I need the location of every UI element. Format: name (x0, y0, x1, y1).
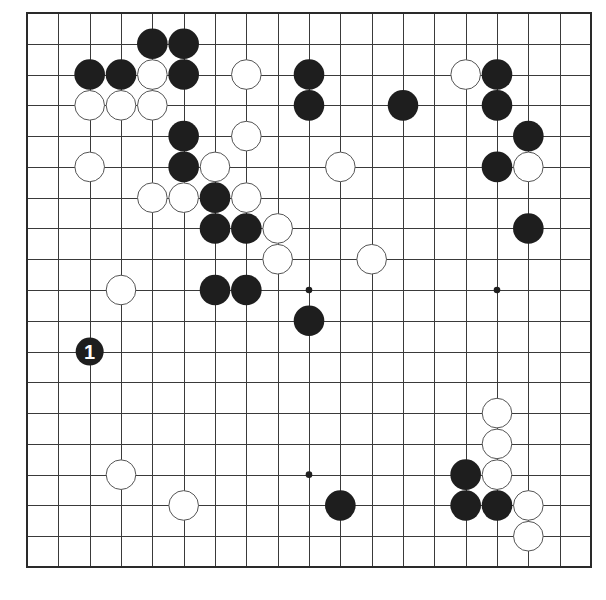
black-stone (200, 213, 231, 244)
white-stone (232, 121, 262, 151)
white-stone (106, 91, 136, 121)
move-number-label: 1 (84, 341, 95, 363)
white-stone (169, 491, 199, 521)
white-stone (200, 152, 230, 182)
black-stone (168, 28, 199, 59)
numbered-move-1: 1 (76, 338, 104, 366)
black-stone (482, 90, 513, 121)
star-point (306, 287, 313, 294)
white-stone (106, 275, 136, 305)
white-stone (106, 460, 136, 490)
black-stone (450, 490, 481, 521)
black-stone (482, 152, 513, 183)
white-stone (232, 60, 262, 90)
black-stone (200, 182, 231, 213)
black-stone (325, 490, 356, 521)
go-board: 1 (0, 0, 606, 600)
black-stone (231, 213, 262, 244)
white-stone (482, 460, 512, 490)
white-stone (514, 521, 544, 551)
white-stone (263, 244, 293, 274)
white-stone (138, 183, 168, 213)
white-stone (138, 60, 168, 90)
black-stone (231, 275, 262, 306)
black-stone (388, 90, 419, 121)
white-stone (357, 244, 387, 274)
star-point (306, 471, 313, 478)
black-stone (513, 121, 544, 152)
white-stone (263, 214, 293, 244)
numbered-moves-layer: 1 (76, 338, 104, 366)
black-stone (168, 59, 199, 90)
black-stone (294, 59, 325, 90)
go-board-diagram: 1 (0, 0, 606, 600)
white-stone (451, 60, 481, 90)
white-stone (482, 398, 512, 428)
white-stone (482, 429, 512, 459)
black-stone (200, 275, 231, 306)
white-stone (75, 152, 105, 182)
black-stone (106, 59, 137, 90)
black-stone (74, 59, 105, 90)
black-stone (294, 90, 325, 121)
white-stone (326, 152, 356, 182)
black-stone (168, 121, 199, 152)
black-stone (482, 59, 513, 90)
black-stone (450, 459, 481, 490)
black-stone (137, 28, 168, 59)
white-stone (514, 152, 544, 182)
white-stone (169, 183, 199, 213)
black-stone (294, 305, 325, 336)
white-stone (75, 91, 105, 121)
white-stone (232, 183, 262, 213)
black-stone (168, 152, 199, 183)
black-stone (482, 490, 513, 521)
white-stone (514, 491, 544, 521)
star-point (494, 287, 501, 294)
black-stone (513, 213, 544, 244)
white-stone (138, 91, 168, 121)
